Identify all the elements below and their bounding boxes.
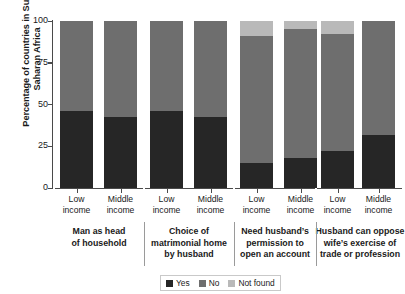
bar-segment-yes[interactable] xyxy=(240,163,273,188)
bar-stack[interactable] xyxy=(104,21,137,188)
legend-item[interactable]: Not found xyxy=(228,279,274,288)
x-tick-mark xyxy=(77,188,78,193)
bar-stack[interactable] xyxy=(240,21,273,188)
bar-segment-yes[interactable] xyxy=(321,151,354,188)
x-axis-label-line: income xyxy=(355,205,403,216)
group-separator xyxy=(234,222,235,266)
x-axis-label-line: Middle xyxy=(97,194,145,205)
group-label-line: Husband can oppose xyxy=(315,226,405,238)
legend-label: No xyxy=(209,279,220,288)
group-separator xyxy=(316,222,317,266)
group-label: Choice ofmatrimonial homeby husband xyxy=(142,226,236,261)
x-axis-label: Middleincome xyxy=(97,194,145,216)
bar-segment-no[interactable] xyxy=(150,21,183,111)
x-tick-mark xyxy=(257,188,258,193)
bar-stack[interactable] xyxy=(60,21,93,188)
x-axis-label-line: Low xyxy=(143,194,191,205)
bar-segment-no[interactable] xyxy=(104,21,137,117)
legend-swatch-icon xyxy=(228,280,235,287)
x-tick-mark xyxy=(121,188,122,193)
bar-segment-yes[interactable] xyxy=(150,111,183,188)
bar-segment-yes[interactable] xyxy=(60,111,93,188)
legend-item[interactable]: No xyxy=(199,279,220,288)
bar-segment-not-found[interactable] xyxy=(284,21,317,29)
x-axis-label-line: Middle xyxy=(187,194,235,205)
bar-segment-not-found[interactable] xyxy=(321,21,354,34)
bar-stack[interactable] xyxy=(194,21,227,188)
x-tick-mark xyxy=(211,188,212,193)
group-label-line: Choice of xyxy=(142,226,236,238)
legend-swatch-icon xyxy=(199,280,206,287)
bar-segment-no[interactable] xyxy=(194,21,227,117)
y-tick-label: 50 xyxy=(24,99,48,109)
bar-segment-no[interactable] xyxy=(321,34,354,151)
x-axis-segment xyxy=(317,188,402,189)
plot-area xyxy=(53,21,401,188)
group-label: Need husband’spermission toopen an accou… xyxy=(232,226,318,261)
legend-label: Not found xyxy=(238,279,274,288)
bar-stack[interactable] xyxy=(284,21,317,188)
x-axis-label: Middleincome xyxy=(187,194,235,216)
x-axis-label-line: Low xyxy=(233,194,281,205)
legend-item[interactable]: Yes xyxy=(166,279,190,288)
bar-segment-no[interactable] xyxy=(240,36,273,163)
x-axis-segment xyxy=(55,188,143,189)
x-axis-label-line: income xyxy=(97,205,145,216)
x-axis-label-line: income xyxy=(233,205,281,216)
group-label-line: Man as head xyxy=(52,226,146,238)
stacked-bar-chart: Percentage of countries in Sub-Saharan A… xyxy=(0,0,405,294)
x-axis-segment xyxy=(145,188,233,189)
bar-segment-yes[interactable] xyxy=(194,117,227,188)
x-axis-label-line: Low xyxy=(53,194,101,205)
y-tick-label: 0 xyxy=(24,182,48,192)
x-axis-segment xyxy=(235,188,315,189)
bar-stack[interactable] xyxy=(150,21,183,188)
group-separator xyxy=(144,222,145,266)
bar-segment-not-found[interactable] xyxy=(240,21,273,36)
group-label-line: wife’s exercise of xyxy=(315,238,405,250)
x-axis-label: Lowincome xyxy=(53,194,101,216)
x-tick-mark xyxy=(338,188,339,193)
group-label-line: open an account xyxy=(232,249,318,261)
bar-segment-no[interactable] xyxy=(60,21,93,111)
bar-segment-no[interactable] xyxy=(284,29,317,158)
group-label-line: Need husband’s xyxy=(232,226,318,238)
group-label-line: of household xyxy=(52,238,146,250)
group-label-line: matrimonial home xyxy=(142,238,236,250)
chart-legend: YesNoNot found xyxy=(160,275,281,291)
bar-stack[interactable] xyxy=(362,21,395,188)
group-label: Man as headof household xyxy=(52,226,146,249)
group-label-line: permission to xyxy=(232,238,318,250)
y-tick-label: 100 xyxy=(24,15,48,25)
x-axis-label-line: income xyxy=(53,205,101,216)
x-tick-mark xyxy=(167,188,168,193)
x-axis-label: Lowincome xyxy=(233,194,281,216)
bar-stack[interactable] xyxy=(321,21,354,188)
bar-segment-yes[interactable] xyxy=(284,158,317,188)
group-label: Husband can opposewife’s exercise oftrad… xyxy=(315,226,405,261)
x-axis-label-line: Middle xyxy=(355,194,403,205)
legend-swatch-icon xyxy=(166,280,173,287)
bar-segment-yes[interactable] xyxy=(104,117,137,188)
group-label-line: trade or profession xyxy=(315,249,405,261)
legend-label: Yes xyxy=(176,279,190,288)
x-axis-label: Lowincome xyxy=(143,194,191,216)
y-tick-label: 75 xyxy=(24,57,48,67)
x-axis-label-line: income xyxy=(143,205,191,216)
y-tick-label: 25 xyxy=(24,140,48,150)
x-axis-label: Middleincome xyxy=(355,194,403,216)
x-tick-mark xyxy=(379,188,380,193)
group-label-line: by husband xyxy=(142,249,236,261)
bar-segment-yes[interactable] xyxy=(362,135,395,188)
x-tick-mark xyxy=(301,188,302,193)
bar-segment-no[interactable] xyxy=(362,21,395,135)
x-axis-label-line: income xyxy=(187,205,235,216)
